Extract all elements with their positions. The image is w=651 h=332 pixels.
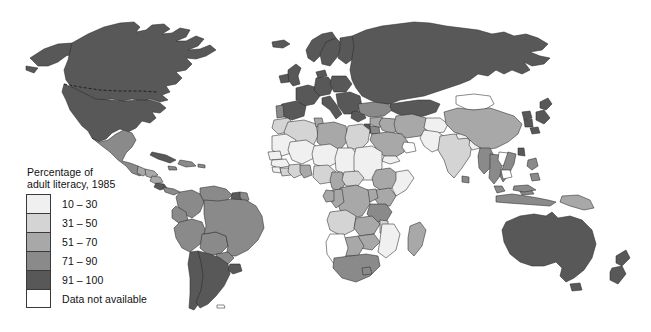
legend-swatch-10-30 [26, 194, 51, 213]
country-uruguay[interactable] [228, 264, 242, 274]
country-angola[interactable] [327, 210, 356, 236]
legend-swatch-71-90 [26, 251, 51, 270]
country-ghana[interactable] [300, 165, 312, 178]
country-papua-new-guinea[interactable] [560, 195, 594, 210]
legend-swatch-51-70 [26, 232, 51, 251]
country-mongolia[interactable] [456, 94, 494, 110]
legend-title: Percentage of adult literacy, 1985 [27, 166, 208, 190]
legend-label-31-50: 31 – 50 [62, 217, 97, 229]
country-japan[interactable] [530, 98, 552, 134]
country-indonesia[interactable] [496, 185, 556, 206]
legend-label-91-100: 91 – 100 [62, 274, 103, 286]
country-sierra-leone[interactable] [272, 167, 281, 173]
legend-label-71-90: 71 – 90 [62, 255, 97, 267]
legend-swatch-31-50 [26, 213, 51, 232]
world-literacy-map-figure: Percentage of adult literacy, 1985 10 – … [0, 0, 651, 332]
country-egypt[interactable] [345, 124, 370, 150]
legend-row-31-50[interactable]: 31 – 50 [26, 213, 208, 232]
country-canada[interactable] [64, 22, 216, 102]
legend-row-10-30[interactable]: 10 – 30 [26, 194, 208, 213]
country-iceland[interactable] [272, 40, 290, 48]
country-gabon[interactable] [323, 190, 334, 202]
country-south-korea[interactable] [524, 119, 533, 127]
country-poland[interactable] [330, 76, 352, 92]
map-legend: Percentage of adult literacy, 1985 10 – … [26, 166, 208, 308]
legend-swatch-no-data [26, 289, 51, 308]
country-jordan[interactable] [370, 126, 380, 134]
country-guinea[interactable] [271, 159, 290, 168]
country-mali[interactable] [288, 140, 316, 164]
country-new-zealand[interactable] [610, 250, 630, 284]
country-ireland[interactable] [279, 74, 289, 83]
legend-label-no-data: Data not available [62, 293, 147, 305]
country-denmark[interactable] [316, 70, 327, 78]
country-tasmania[interactable] [570, 283, 582, 291]
country-mozambique[interactable] [378, 224, 400, 258]
region-oceania [502, 212, 630, 291]
country-lesotho[interactable] [362, 267, 372, 275]
legend-rows: 10 – 30 31 – 50 51 – 70 71 – 90 91 – 100 [26, 194, 208, 308]
country-madagascar[interactable] [408, 222, 426, 256]
country-australia[interactable] [502, 212, 596, 282]
country-portugal[interactable] [276, 105, 284, 118]
country-yemen[interactable] [382, 156, 400, 164]
legend-row-71-90[interactable]: 71 – 90 [26, 251, 208, 270]
country-taiwan[interactable] [518, 148, 525, 156]
country-falklands[interactable] [217, 305, 225, 308]
country-cuba[interactable] [150, 152, 176, 163]
country-cambodia[interactable] [501, 170, 512, 179]
country-india[interactable] [438, 134, 472, 178]
legend-label-10-30: 10 – 30 [62, 198, 97, 210]
legend-row-91-100[interactable]: 91 – 100 [26, 270, 208, 289]
country-ussr[interactable] [350, 22, 550, 104]
legend-label-51-70: 51 – 70 [62, 236, 97, 248]
country-south-africa[interactable] [333, 254, 380, 282]
country-philippines[interactable] [527, 158, 540, 181]
legend-swatch-91-100 [26, 270, 51, 289]
legend-row-51-70[interactable]: 51 – 70 [26, 232, 208, 251]
country-sri-lanka[interactable] [462, 176, 469, 183]
legend-row-no-data[interactable]: Data not available [26, 289, 208, 308]
country-united-kingdom[interactable] [288, 64, 301, 86]
country-senegal[interactable] [268, 151, 282, 160]
country-north-korea[interactable] [522, 111, 532, 120]
